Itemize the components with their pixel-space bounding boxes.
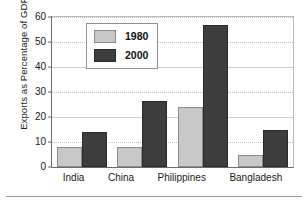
y-tick-label-30: 30 [35,87,52,97]
y-tick-label-0: 0 [40,162,52,172]
bar-group-bangladesh [238,17,288,167]
bar-philippines-2000 [203,25,228,168]
bar-china-1980 [117,147,142,167]
bar-india-2000 [82,132,107,167]
x-axis-label-philippines: Philippines [158,172,206,183]
bottom-divider [6,196,302,197]
legend-item-1980: 1980 [94,30,148,43]
y-axis-title: Exports as Percentage of GDP [18,0,29,149]
bar-philippines-1980 [178,107,203,167]
legend: 1980 2000 [86,23,158,69]
legend-swatch-2000 [94,49,116,62]
bar-bangladesh-2000 [263,130,288,167]
bar-india-1980 [57,147,82,167]
y-tick-label-50: 50 [35,37,52,47]
bar-china-2000 [142,101,167,167]
legend-swatch-1980 [94,30,116,43]
plot-area: 0102030405060 1980 2000 [51,16,294,168]
bar-chart-figure: Exports as Percentage of GDP 01020304050… [0,0,308,207]
x-axis-label-bangladesh: Bangladesh [229,172,282,183]
x-axis-labels: IndiaChinaPhilippinesBangladesh [51,172,294,183]
y-tick-label-20: 20 [35,112,52,122]
x-axis-label-india: India [63,172,85,183]
legend-item-2000: 2000 [94,49,148,62]
x-axis-label-china: China [108,172,134,183]
legend-label-2000: 2000 [125,50,148,61]
bar-group-philippines [178,17,228,167]
legend-label-1980: 1980 [125,31,148,42]
y-tick-label-60: 60 [35,12,52,22]
bar-bangladesh-1980 [238,155,263,168]
y-tick-label-40: 40 [35,62,52,72]
y-tick-label-10: 10 [35,137,52,147]
